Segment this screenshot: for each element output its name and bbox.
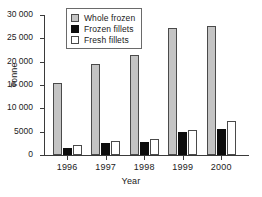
- y-tick-label: 0: [28, 149, 33, 159]
- y-tick-label: 10 000: [7, 102, 33, 112]
- bar-1996-frozen-fillets: [63, 148, 72, 155]
- bar-2000-fresh-fillets: [227, 121, 236, 155]
- y-tick-mark: 10 000: [40, 108, 44, 109]
- x-axis-line: [44, 155, 249, 156]
- legend-label-fresh-fillets: Fresh fillets: [84, 35, 129, 45]
- bar-1999-frozen-fillets: [178, 132, 187, 155]
- legend-label-whole-frozen: Whole frozen: [84, 13, 135, 23]
- bar-1997-fresh-fillets: [111, 141, 120, 155]
- bar-1996-whole-frozen: [53, 83, 62, 155]
- y-tick-label: 5000: [14, 126, 33, 136]
- legend-swatch-icon-frozen-fillets: [71, 25, 79, 33]
- y-tick-label: 15 000: [7, 79, 33, 89]
- legend-swatch-icon-whole-frozen: [71, 14, 79, 22]
- bar-1999-whole-frozen: [168, 28, 177, 155]
- y-axis-line: [44, 15, 45, 156]
- legend-swatch-icon-fresh-fillets: [71, 36, 79, 44]
- bar-1998-fresh-fillets: [150, 139, 159, 155]
- y-tick-mark: 20 000: [40, 62, 44, 63]
- y-axis-title: Tonne: [9, 45, 19, 105]
- x-tick-label-1998: 1998: [124, 162, 164, 172]
- bar-2000-whole-frozen: [207, 26, 216, 155]
- y-tick-mark: 15 000: [40, 85, 44, 86]
- legend-item-whole-frozen: Whole frozen: [71, 12, 135, 23]
- bar-1998-whole-frozen: [130, 55, 139, 155]
- y-tick-mark: 30 000: [40, 15, 44, 16]
- y-tick-label: 20 000: [7, 56, 33, 66]
- bar-1997-frozen-fillets: [101, 143, 110, 155]
- x-tick-label-2000: 2000: [201, 162, 241, 172]
- bar-chart: Tonne 0500010 00015 00020 00025 00030 00…: [0, 0, 262, 197]
- legend-item-frozen-fillets: Frozen fillets: [71, 23, 135, 34]
- x-axis-title: Year: [0, 176, 262, 186]
- x-tick-mark: [221, 156, 222, 160]
- legend-label-frozen-fillets: Frozen fillets: [84, 24, 134, 34]
- legend-item-fresh-fillets: Fresh fillets: [71, 34, 135, 45]
- x-tick-mark: [106, 156, 107, 160]
- bar-2000-frozen-fillets: [217, 129, 226, 155]
- bar-1997-whole-frozen: [91, 64, 100, 155]
- y-tick-label: 30 000: [7, 9, 33, 19]
- bar-1998-frozen-fillets: [140, 142, 149, 155]
- x-tick-label-1997: 1997: [86, 162, 126, 172]
- bar-1996-fresh-fillets: [73, 145, 82, 155]
- x-tick-mark: [183, 156, 184, 160]
- x-tick-mark: [144, 156, 145, 160]
- chart-legend: Whole frozen Frozen fillets Fresh fillet…: [66, 8, 142, 49]
- y-tick-mark: 0: [40, 155, 44, 156]
- x-tick-label-1999: 1999: [163, 162, 203, 172]
- y-tick-label: 25 000: [7, 32, 33, 42]
- y-tick-mark: 5000: [40, 132, 44, 133]
- x-tick-label-1996: 1996: [47, 162, 87, 172]
- bar-1999-fresh-fillets: [188, 130, 197, 155]
- x-tick-mark: [67, 156, 68, 160]
- y-tick-mark: 25 000: [40, 38, 44, 39]
